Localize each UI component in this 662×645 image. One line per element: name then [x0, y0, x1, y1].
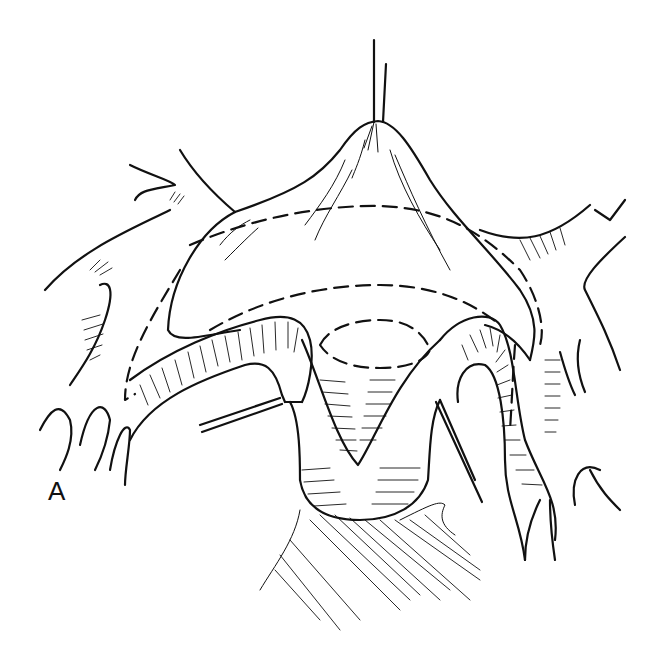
panel-label: A: [48, 478, 65, 504]
curved-vessel-arches: [130, 317, 556, 560]
surgical-illustration: A: [0, 0, 662, 645]
dashed-incision-lines: [125, 206, 542, 430]
illustration-drawing: [0, 0, 662, 645]
elevated-tissue-flap: [168, 121, 534, 360]
branching-vessels-left: [40, 150, 235, 485]
underlying-muscle-fibers: [260, 503, 480, 630]
traction-suture: [364, 40, 386, 152]
